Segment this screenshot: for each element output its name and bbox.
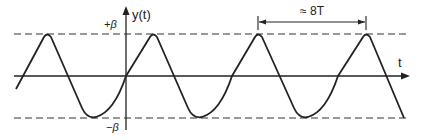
time-axis-arrow-icon <box>401 73 410 80</box>
upper-bound-label: +β <box>104 18 117 30</box>
y-axis-label: y(t) <box>132 7 151 22</box>
y-axis-arrow-icon <box>123 6 130 15</box>
period-bracket-right-arrow-icon <box>358 20 365 25</box>
lower-bound-label: −β <box>106 121 119 133</box>
x-axis-label: t <box>398 55 402 70</box>
period-bracket-left-arrow-icon <box>259 20 266 25</box>
period-annotation-label: ≈ 8T <box>300 4 325 18</box>
waveform-diagram: ≈ 8T y(t) +β −β t <box>0 0 423 140</box>
